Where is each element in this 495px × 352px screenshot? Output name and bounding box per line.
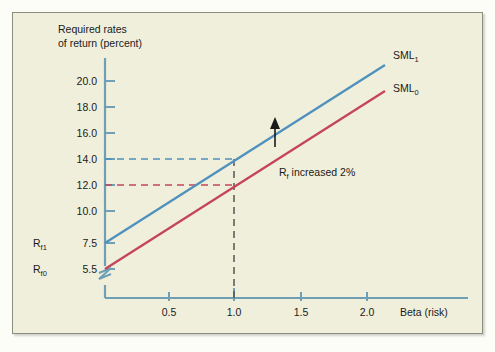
x-axis-title: Beta (risk) (400, 306, 448, 318)
x-tick-label-1p5: 1.5 (294, 306, 309, 318)
annotation-suffix: increased 2% (289, 166, 356, 178)
intercept-label-rf1-sub: f1 (41, 243, 47, 252)
sml-shift-chart: Required rates of return (percent) 20.0 … (13, 13, 483, 334)
y-tick-label-5p5: 5.5 (82, 263, 97, 275)
x-tick-label-0p5: 0.5 (162, 306, 177, 318)
y-tick-label-18: 18.0 (77, 101, 98, 113)
y-axis-title-line2: of return (percent) (58, 37, 142, 49)
series-label-sml1-sub: 1 (415, 55, 419, 64)
intercept-label-rf1: Rf1 (33, 237, 47, 252)
y-tick-label-7p5: 7.5 (82, 237, 97, 249)
series-label-sml0: SML0 (393, 82, 419, 97)
x-tick-label-1p0: 1.0 (227, 306, 242, 318)
y-tick-label-20: 20.0 (77, 75, 98, 87)
y-tick-label-14: 14.0 (77, 153, 98, 165)
series-line-sml1 (105, 65, 385, 243)
intercept-label-rf0: Rf0 (33, 263, 47, 278)
series-label-sml0-sub: 0 (415, 88, 419, 97)
chart-frame: Required rates of return (percent) 20.0 … (12, 12, 483, 334)
series-label-sml0-text: SML (393, 82, 415, 94)
y-axis-title-line1: Required rates (58, 23, 127, 35)
series-label-sml1-text: SML (393, 49, 415, 61)
annotation-rf-increase: Rf increased 2% (279, 166, 355, 181)
annotation-arrow-head (270, 117, 280, 129)
series-line-sml0 (105, 91, 385, 269)
series-label-sml1: SML1 (393, 49, 419, 64)
intercept-label-rf0-sub: f0 (41, 269, 47, 278)
y-tick-label-12: 12.0 (77, 179, 98, 191)
y-tick-label-10: 10.0 (77, 205, 98, 217)
y-tick-label-16: 16.0 (77, 127, 98, 139)
x-tick-label-2p0: 2.0 (360, 306, 375, 318)
figure-canvas: Required rates of return (percent) 20.0 … (0, 0, 495, 352)
